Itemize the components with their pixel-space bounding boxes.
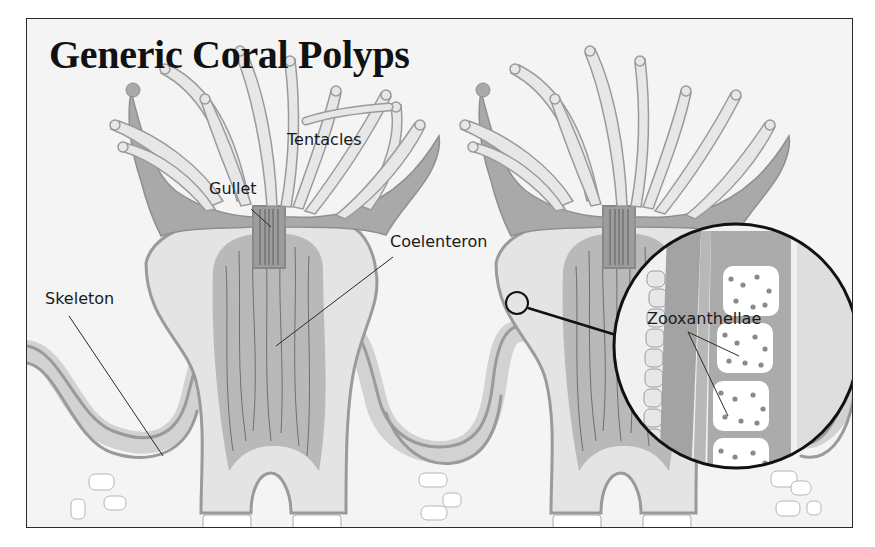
diagram-title: Generic Coral Polyps xyxy=(49,31,410,78)
label-coelenteron: Coelenteron xyxy=(390,232,488,251)
coral-polyp-illustration xyxy=(27,19,853,528)
diagram-frame: Generic Coral Polyps Tentacles Gullet Co… xyxy=(26,18,853,528)
label-zooxanthellae: Zooxanthellae xyxy=(647,309,761,328)
label-tentacles: Tentacles xyxy=(287,130,362,149)
label-gullet: Gullet xyxy=(209,179,257,198)
label-skeleton: Skeleton xyxy=(45,289,114,308)
